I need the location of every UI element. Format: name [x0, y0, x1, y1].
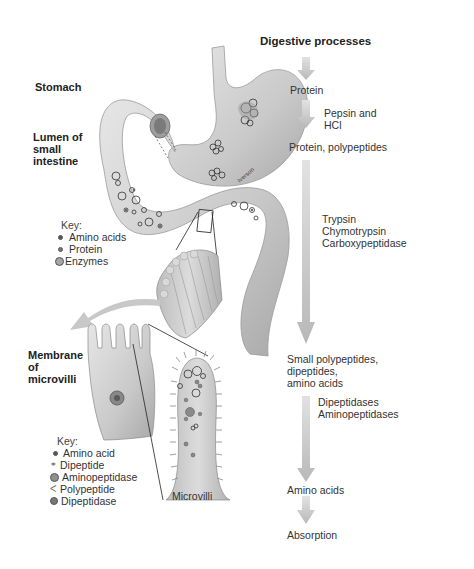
microvilli-key: Key: Amino acid ⚭ Dipeptide Aminopeptida… — [50, 435, 137, 507]
flow-arrow-1-icon — [297, 57, 315, 80]
lumen-key-title: Key: — [61, 219, 126, 231]
flow-product-small-polypeptides: Small polypeptides, dipeptides, amino ac… — [287, 353, 378, 389]
large-circle-icon — [55, 257, 64, 266]
lumen-label: Lumen of small intestine — [33, 131, 83, 167]
flow-arrow-4-icon — [297, 396, 315, 482]
small-ring-dot-icon — [58, 247, 63, 252]
flow-enzymes-pepsin: Pepsin and HCl — [324, 107, 377, 131]
diagram-title: Digestive processes — [260, 35, 371, 47]
flow-enzymes-pancreatic: Trypsin Chymotrypsin Carboxypeptidase — [322, 213, 407, 249]
flow-arrow-3-icon — [297, 160, 315, 344]
key-item-dipeptide: ⚭ Dipeptide — [50, 459, 137, 471]
microvilli-label: Microvilli — [172, 490, 212, 502]
large-circle-icon — [50, 473, 59, 482]
stomach-label: Stomach — [35, 81, 81, 93]
small-dot-icon — [58, 235, 63, 240]
flow-product-protein: Protein — [290, 84, 323, 96]
microvillus-illustration — [166, 350, 230, 500]
double-ring-icon: ⚭ — [50, 459, 57, 471]
small-dot-icon — [53, 451, 58, 456]
stomach-illustration — [169, 46, 308, 186]
key-item-polypeptide: ᐸ Polypeptide — [50, 483, 137, 495]
key-item-enzymes: Enzymes — [55, 255, 126, 267]
flow-product-protein-polypeptides: Protein, polypeptides — [289, 141, 387, 153]
flow-product-absorption: Absorption — [287, 529, 337, 541]
chain-icon: ᐸ — [50, 483, 57, 495]
key-item-aminopeptidase: Aminopeptidase — [50, 471, 137, 483]
filled-circle-icon — [50, 497, 58, 505]
flow-arrow-5-icon — [297, 496, 315, 524]
flow-product-amino-acids: Amino acids — [287, 484, 344, 496]
key-item-amino-acid: Amino acid — [50, 447, 137, 459]
villi-fold-illustration — [157, 250, 222, 338]
lumen-key: Key: Amino acids Protein Enzymes — [55, 219, 126, 267]
microvilli-key-title: Key: — [57, 435, 137, 447]
flow-enzymes-brush-border: Dipeptidases Aminopeptidases — [318, 396, 399, 420]
key-item-dipeptidase: Dipeptidase — [50, 495, 137, 507]
membrane-label: Membrane of microvilli — [28, 349, 83, 385]
key-item-protein: Protein — [55, 243, 126, 255]
key-item-amino-acids: Amino acids — [55, 231, 126, 243]
